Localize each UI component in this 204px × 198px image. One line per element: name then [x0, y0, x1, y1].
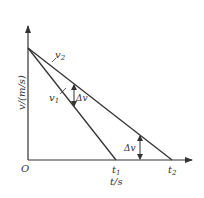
delta-v-label-lower: Δv — [123, 143, 136, 153]
v1-label: v1 — [49, 92, 59, 105]
vt-diagram: v/(m/s) t/s O v2 v1 t1 t2 Δv Δv — [0, 0, 204, 198]
line-v2 — [28, 48, 172, 160]
line-v1 — [28, 48, 116, 160]
y-axis-label: v/(m/s) — [16, 75, 27, 110]
x-axis-label: t/s — [110, 176, 123, 187]
delta-v-label-upper: Δv — [75, 93, 88, 103]
origin-label: O — [21, 163, 29, 174]
v2-label: v2 — [55, 49, 66, 62]
t2-label: t2 — [168, 164, 177, 177]
